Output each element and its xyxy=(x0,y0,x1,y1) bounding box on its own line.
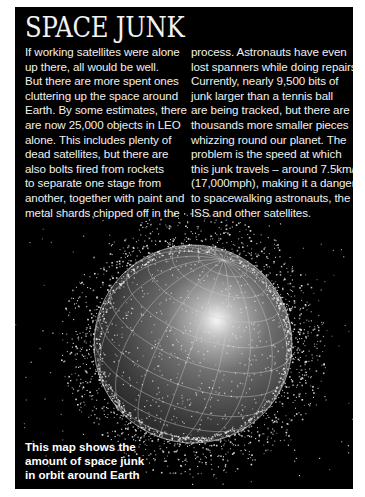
body-text-line: lost spanners while doing repairs. xyxy=(191,60,353,75)
body-text-line: dead satellites, but there are xyxy=(25,147,195,162)
body-text-line: But there are more spent ones xyxy=(25,74,195,89)
body-text-line: ISS and other satellites. xyxy=(191,206,353,221)
figure-caption: This map shows the amount of space junk … xyxy=(25,440,144,483)
body-text-left-column: If working satellites were alone up ther… xyxy=(25,45,195,220)
body-text-line: If working satellites were alone xyxy=(25,45,195,60)
body-text-line: Currently, nearly 9,500 bits of xyxy=(191,74,353,89)
body-text-line: problem is the speed at which xyxy=(191,147,353,162)
caption-line: amount of space junk xyxy=(25,454,144,468)
body-text-right-column: process. Astronauts have even lost spann… xyxy=(191,45,353,220)
body-text-line: to separate one stage from xyxy=(25,176,195,191)
body-text-line: process. Astronauts have even xyxy=(191,45,353,60)
body-text-line: cluttering up the space around xyxy=(25,89,195,104)
body-text-line: thousands more smaller pieces xyxy=(191,118,353,133)
body-text-line: also bolts fired from rockets xyxy=(25,162,195,177)
article-panel: SPACE JUNK If working satellites were al… xyxy=(15,7,353,489)
body-text-line: are now 25,000 objects in LEO xyxy=(25,118,195,133)
body-text-line: whizzing round our planet. The xyxy=(191,133,353,148)
caption-line: in orbit around Earth xyxy=(25,468,144,482)
caption-line: This map shows the xyxy=(25,440,144,454)
body-text-line: Earth. By some estimates, there xyxy=(25,103,195,118)
body-text-line: metal shards chipped off in the xyxy=(25,206,195,221)
body-text-line: another, together with paint and xyxy=(25,191,195,206)
body-text-line: alone. This includes plenty of xyxy=(25,133,195,148)
body-text-line: junk larger than a tennis ball xyxy=(191,89,353,104)
body-text-line: this junk travels – around 7.5km/s xyxy=(191,162,353,177)
page-title: SPACE JUNK xyxy=(25,13,184,43)
body-text-line: are being tracked, but there are xyxy=(191,103,353,118)
body-text-line: to spacewalking astronauts, the xyxy=(191,191,353,206)
body-text-line: (17,000mph), making it a danger xyxy=(191,176,353,191)
body-text-line: up there, all would be well. xyxy=(25,60,195,75)
